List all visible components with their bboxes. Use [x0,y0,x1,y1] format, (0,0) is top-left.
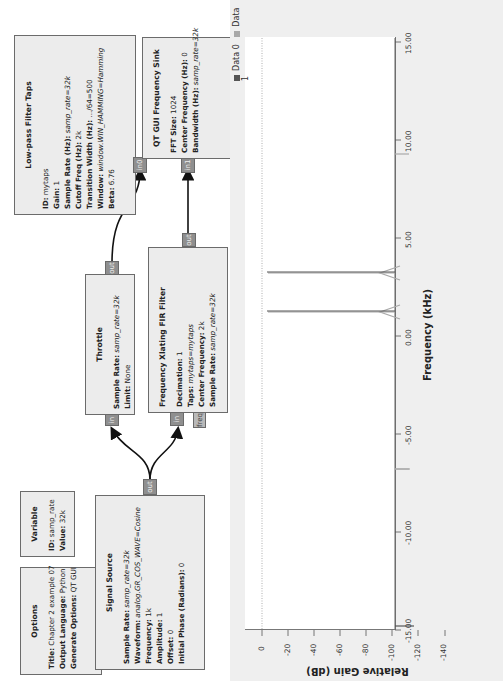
variable-row: Value: 32k [57,497,68,551]
options-row: Output Language: Python [57,573,68,669]
throttle-block[interactable]: Throttle Sample Rate: samp_rate=32k Limi… [85,274,135,415]
options-row: Title: Chapter 2 example 07 [46,573,57,669]
xlating-filter-block[interactable]: Frequency Xlating FIR Filter Decimation:… [148,247,228,413]
legend: Data 0 Data 1 [232,0,250,81]
x-tick-label: 15.00 [404,33,413,54]
xlating-filter-title: Frequency Xlating FIR Filter [157,253,168,407]
lowpass-taps-block[interactable]: Low-pass Filter Taps ID: mytaps Gain: 1 … [14,35,136,215]
spectrum-plot [230,0,503,681]
throttle-title: Throttle [94,280,105,409]
xlating-out-port[interactable]: out [182,233,196,247]
y-tick-label: -120 [413,644,422,661]
rotated-canvas: Options Title: Chapter 2 example 07 Outp… [0,0,503,681]
options-row: Generate Options: QT GUI [68,573,79,669]
freq-sink-block[interactable]: QT GUI Frequency Sink FFT Size: 1024 Cen… [142,37,232,159]
y-tick-label: -60 [335,644,344,656]
freq-sink-title: QT GUI Frequency Sink [151,43,162,153]
throttle-out-port[interactable]: out [105,261,119,275]
y-tick-label: 0 [257,646,266,651]
xlating-freq-port[interactable]: freq [193,412,206,428]
y-tick-label: -80 [361,644,370,656]
x-tick-label: -5.00 [404,426,413,445]
lowpass-taps-title: Low-pass Filter Taps [23,41,34,209]
signal-source-block[interactable]: Signal Source Sample Rate: samp_rate=32k… [95,495,205,670]
options-title: Options [29,573,40,669]
x-tick-label: 0.00 [404,329,413,346]
frequency-sink-chart: 0 -20 -40 -60 -80 -100 -120 -140 -15.00 … [230,0,503,681]
throttle-in-port[interactable]: in [105,414,119,426]
legend-item-data-0[interactable]: Data 0 [232,44,241,81]
y-tick-label: -140 [439,644,448,661]
y-tick-label: -40 [309,644,318,656]
y-tick-label: -100 [387,644,396,661]
variable-title: Variable [29,497,40,551]
x-tick-label: 5.00 [404,231,413,248]
freq-sink-in1-port[interactable]: in1 [181,157,195,173]
freq-sink-in0-port[interactable]: in0 [133,157,147,173]
xlating-in-port[interactable]: in [170,412,184,426]
y-axis-title: Relative Gain (dB) [306,666,409,677]
variable-row: ID: samp_rate [46,497,57,551]
options-block[interactable]: Options Title: Chapter 2 example 07 Outp… [20,567,102,675]
series-data-0 [267,272,414,626]
variable-block[interactable]: Variable ID: samp_rate Value: 32k [20,491,75,557]
x-tick-label: -10.00 [404,521,413,545]
x-axis-title: Frequency (kHz) [422,289,433,381]
x-tick-label: 10.00 [404,131,413,152]
y-tick-label: -20 [283,644,292,656]
signal-source-title: Signal Source [104,501,115,664]
signal-source-out-port[interactable]: out [143,479,157,495]
x-tick-label: -15.00 [404,619,413,643]
